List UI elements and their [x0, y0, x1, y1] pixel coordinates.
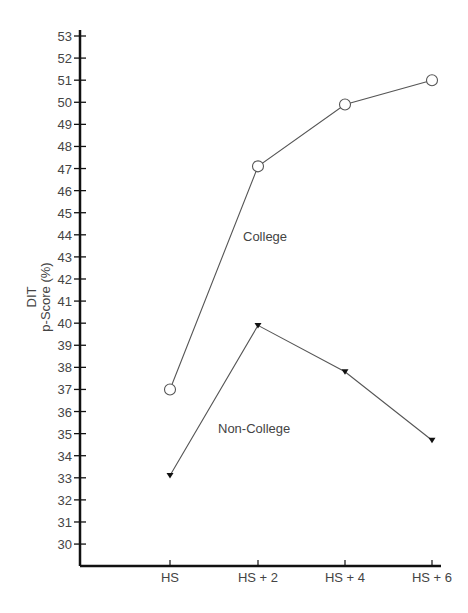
y-tick-label: 37	[58, 382, 72, 397]
y-tick-label: 41	[58, 294, 72, 309]
x-axis-ticks: HSHS + 2HS + 4HS + 6	[161, 560, 452, 585]
y-tick-label: 43	[58, 250, 72, 265]
y-tick-label: 31	[58, 515, 72, 530]
y-tick-label: 30	[58, 537, 72, 552]
y-tick-label: 53	[58, 29, 72, 44]
line-chart: 3031323334353637383940414243444546474849…	[0, 0, 468, 613]
x-tick-label: HS + 4	[325, 570, 365, 585]
y-tick-label: 52	[58, 51, 72, 66]
y-tick-label: 47	[58, 162, 72, 177]
y-tick-label: 34	[58, 449, 72, 464]
y-axis-label-line: p-Score (%)	[38, 262, 53, 331]
y-tick-label: 51	[58, 73, 72, 88]
y-tick-label: 45	[58, 206, 72, 221]
open-circle-marker	[340, 99, 351, 110]
y-tick-label: 33	[58, 471, 72, 486]
series-layer	[165, 75, 438, 479]
y-tick-label: 46	[58, 184, 72, 199]
y-tick-label: 35	[58, 427, 72, 442]
y-tick-label: 50	[58, 95, 72, 110]
y-axis-ticks: 3031323334353637383940414243444546474849…	[58, 29, 86, 552]
series-annotation: Non-College	[218, 421, 290, 436]
y-tick-label: 32	[58, 493, 72, 508]
x-tick-label: HS + 2	[238, 570, 278, 585]
triangle-marker	[167, 473, 174, 479]
open-circle-marker	[427, 75, 438, 86]
triangle-marker	[255, 323, 262, 329]
y-tick-label: 39	[58, 338, 72, 353]
series-line-non-college	[170, 325, 432, 475]
y-axis-label-line: DIT	[24, 286, 39, 307]
y-axis-label: DITp-Score (%)	[24, 262, 53, 331]
open-circle-marker	[165, 384, 176, 395]
series-annotation: College	[243, 229, 287, 244]
y-tick-label: 36	[58, 405, 72, 420]
y-tick-label: 40	[58, 316, 72, 331]
x-tick-label: HS	[161, 570, 179, 585]
open-circle-marker	[253, 161, 264, 172]
y-tick-label: 44	[58, 228, 72, 243]
x-tick-label: HS + 6	[412, 570, 452, 585]
y-tick-label: 42	[58, 272, 72, 287]
y-tick-label: 38	[58, 360, 72, 375]
y-tick-label: 48	[58, 139, 72, 154]
series-line-college	[170, 80, 432, 389]
triangle-marker	[429, 438, 436, 444]
y-tick-label: 49	[58, 117, 72, 132]
